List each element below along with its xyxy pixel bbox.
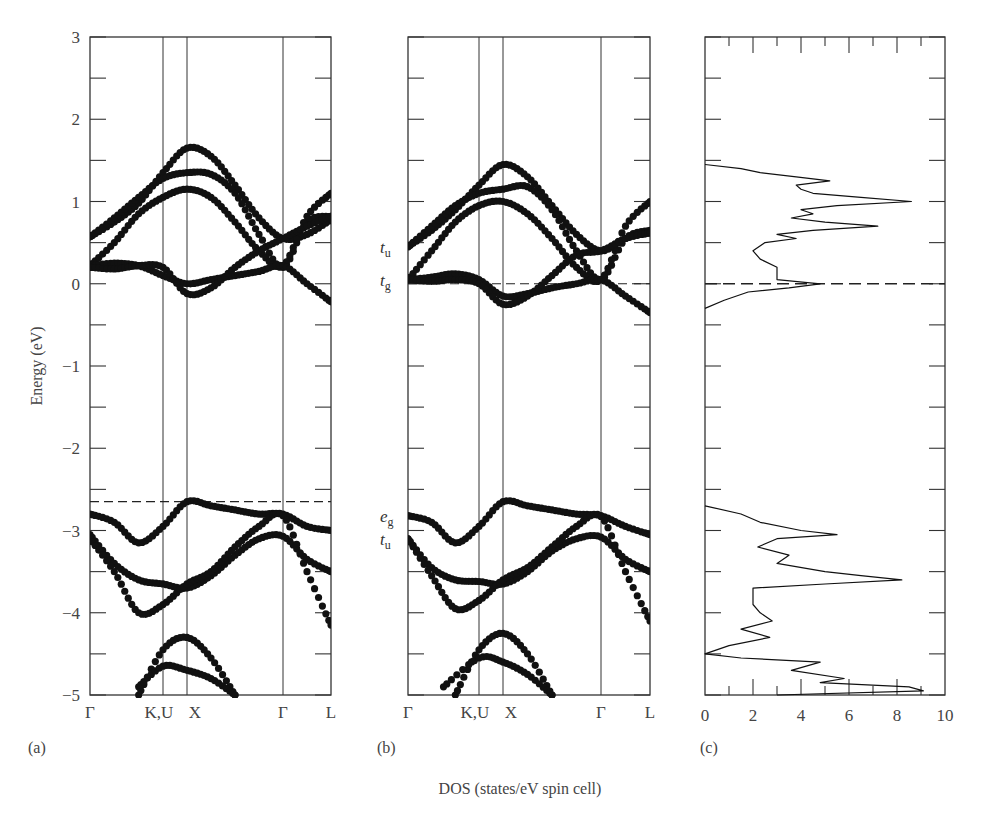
band-point xyxy=(327,213,334,220)
k-point-label: Γ xyxy=(85,703,95,722)
y-tick-label: 2 xyxy=(72,110,81,129)
band-point xyxy=(322,610,329,617)
band-point xyxy=(646,309,653,316)
panel-label-b: (b) xyxy=(377,739,396,757)
band-point xyxy=(327,190,334,197)
band-dots xyxy=(404,161,653,699)
panel-a-band-structure: 3210−1−2−3−4−5ΓK,UXΓL xyxy=(62,28,336,722)
panel-b-band-structure: ΓK,UXΓLtutgegtu xyxy=(380,37,655,722)
band-point xyxy=(315,594,322,601)
k-point-label: Γ xyxy=(403,703,413,722)
band-point xyxy=(125,595,132,602)
k-point-label: Γ xyxy=(596,703,606,722)
dos-tick-label: 4 xyxy=(797,706,806,725)
y-tick-label: −4 xyxy=(62,604,81,623)
panel-c-dos: 0246810 xyxy=(701,37,954,725)
panel-label-a: (a) xyxy=(28,739,46,757)
band-point xyxy=(601,517,608,524)
band-point xyxy=(300,560,307,567)
band-point xyxy=(283,517,290,524)
band-point xyxy=(327,621,334,628)
k-point-label: K,U xyxy=(461,703,490,722)
dos-curve xyxy=(705,506,923,695)
band-point xyxy=(152,658,159,665)
band-point xyxy=(528,655,535,662)
dos-tick-label: 0 xyxy=(701,706,710,725)
band-point xyxy=(638,600,645,607)
band-point xyxy=(562,230,569,237)
k-point-label: X xyxy=(505,703,517,722)
dos-tick-label: 6 xyxy=(845,706,854,725)
band-point xyxy=(121,588,128,595)
band-point xyxy=(454,687,461,694)
band-point xyxy=(286,523,293,530)
band-point xyxy=(286,252,293,259)
band-point xyxy=(460,674,467,681)
band-point xyxy=(457,681,464,688)
band-point xyxy=(242,206,249,213)
band-point xyxy=(259,237,266,244)
k-point-label: L xyxy=(326,703,336,722)
y-tick-label: 0 xyxy=(72,275,81,294)
dos-tick-label: 2 xyxy=(749,706,758,725)
band-point xyxy=(118,581,125,588)
band-point xyxy=(448,676,455,683)
band-structure-figure: 3210−1−2−3−4−5ΓK,UXΓL ΓK,UXΓLtutgegtu 02… xyxy=(0,0,987,821)
band-point xyxy=(646,229,653,236)
dos-curve xyxy=(705,165,911,309)
dos-tick-label: 8 xyxy=(893,706,902,725)
band-point xyxy=(290,532,297,539)
band-point xyxy=(231,691,238,698)
band-point xyxy=(245,213,252,220)
band-point xyxy=(604,524,611,531)
band-point xyxy=(219,671,226,678)
band-point xyxy=(293,541,300,548)
panel-label-c: (c) xyxy=(700,739,718,757)
k-point-label: Γ xyxy=(278,703,288,722)
band-point xyxy=(646,198,653,205)
band-point xyxy=(566,236,573,243)
y-tick-label: −5 xyxy=(62,686,80,705)
band-point xyxy=(307,576,314,583)
band-point xyxy=(634,592,641,599)
y-tick-label: −1 xyxy=(62,357,80,376)
band-point xyxy=(630,584,637,591)
band-point xyxy=(536,669,543,676)
band-point xyxy=(555,217,562,224)
band-point xyxy=(297,550,304,557)
band-symmetry-label: eg xyxy=(380,507,394,529)
band-point xyxy=(646,617,653,624)
band-point xyxy=(453,671,460,678)
k-point-label: L xyxy=(645,703,655,722)
band-point xyxy=(114,574,121,581)
band-point xyxy=(611,541,618,548)
band-point xyxy=(327,298,334,305)
band-point xyxy=(618,560,625,567)
band-point xyxy=(646,531,653,538)
y-axis-label: Energy (eV) xyxy=(28,326,46,405)
band-point xyxy=(249,219,256,226)
band-point xyxy=(215,665,222,672)
y-tick-label: 1 xyxy=(72,193,81,212)
k-point-label: X xyxy=(189,703,201,722)
dos-tick-label: 10 xyxy=(937,706,954,725)
band-point xyxy=(608,532,615,539)
band-point xyxy=(238,200,245,207)
band-point xyxy=(646,568,653,575)
y-tick-label: −3 xyxy=(62,522,80,541)
band-point xyxy=(327,527,334,534)
y-tick-label: −2 xyxy=(62,439,80,458)
band-point xyxy=(421,561,428,568)
band-point xyxy=(608,256,615,263)
band-point xyxy=(559,223,566,230)
band-point xyxy=(319,602,326,609)
band-symmetry-label: tg xyxy=(380,271,391,293)
band-dots xyxy=(86,144,334,699)
band-point xyxy=(615,551,622,558)
dos-axis-label: DOS (states/eV spin cell) xyxy=(439,780,602,798)
band-point xyxy=(327,568,334,575)
band-point xyxy=(626,576,633,583)
band-point xyxy=(459,666,466,673)
plot-frame xyxy=(705,37,945,695)
band-point xyxy=(417,555,424,562)
